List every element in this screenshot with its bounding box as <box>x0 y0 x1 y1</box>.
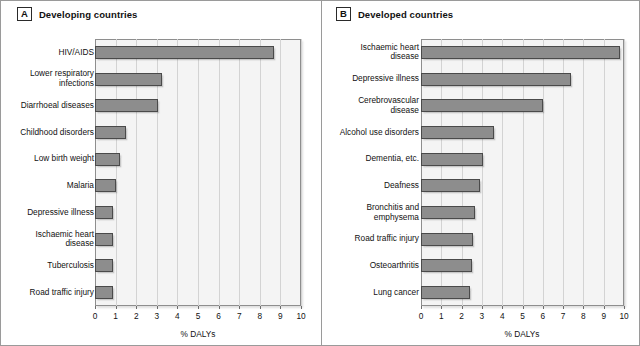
category-label: Bronchitis and emphysema <box>269 203 419 222</box>
category-label: Lung cancer <box>269 288 419 298</box>
axis-tick <box>462 306 463 309</box>
category-label: Malaria <box>0 181 94 191</box>
axis-tick-label: 1 <box>431 311 451 321</box>
axis-tick-label: 7 <box>229 311 249 321</box>
axis-tick-label: 8 <box>573 311 593 321</box>
category-label: Low birth weight <box>0 154 94 164</box>
axis-tick-label: 6 <box>533 311 553 321</box>
bar <box>95 153 120 166</box>
panel-b-plot-area <box>421 39 624 306</box>
axis-tick-label: 5 <box>188 311 208 321</box>
panel-b-letter: B <box>336 7 351 21</box>
category-label: Alcohol use disorders <box>269 128 419 138</box>
gridline <box>624 39 625 306</box>
axis-tick <box>583 306 584 309</box>
bar <box>421 126 494 139</box>
panel-b-header: B Developed countries <box>336 7 453 21</box>
category-label: Tuberculosis <box>0 261 94 271</box>
category-label: Depressive illness <box>0 208 94 218</box>
axis-tick-label: 8 <box>250 311 270 321</box>
axis-tick <box>116 306 117 309</box>
bar <box>95 46 274 59</box>
axis-tick <box>177 306 178 309</box>
category-label: Lower respiratory infections <box>0 69 94 88</box>
axis-tick-label: 9 <box>594 311 614 321</box>
panel-a-title: Developing countries <box>39 9 138 20</box>
category-label: Depressive illness <box>269 74 419 84</box>
bar <box>95 73 162 86</box>
panel-b-axis-title: % DALYs <box>462 329 582 339</box>
bar <box>421 46 620 59</box>
axis-tick-label: 5 <box>513 311 533 321</box>
axis-tick-label: 0 <box>411 311 431 321</box>
axis-tick <box>482 306 483 309</box>
bar <box>95 233 113 246</box>
category-label: Cerebrovascular disease <box>269 96 419 115</box>
bar <box>95 286 113 299</box>
category-label: Osteoarthritis <box>269 261 419 271</box>
bar <box>421 153 483 166</box>
bar <box>95 206 113 219</box>
category-label: Childhood disorders <box>0 128 94 138</box>
axis-tick-label: 10 <box>291 311 311 321</box>
axis-tick-label: 4 <box>492 311 512 321</box>
axis-tick-label: 3 <box>472 311 492 321</box>
axis-tick-label: 2 <box>126 311 146 321</box>
axis-tick-label: 4 <box>167 311 187 321</box>
bar <box>95 126 126 139</box>
bar <box>421 206 475 219</box>
bar <box>421 179 480 192</box>
axis-tick-label: 0 <box>85 311 105 321</box>
axis-tick <box>198 306 199 309</box>
bar <box>421 259 472 272</box>
axis-tick <box>301 306 302 309</box>
panel-b-title: Developed countries <box>358 9 453 20</box>
axis-tick-label: 6 <box>209 311 229 321</box>
axis-tick-label: 10 <box>614 311 634 321</box>
axis-tick-label: 2 <box>452 311 472 321</box>
axis-tick <box>563 306 564 309</box>
bar <box>95 99 158 112</box>
axis-tick <box>421 306 422 309</box>
bar <box>421 73 571 86</box>
bar <box>421 99 543 112</box>
panel-b-bars <box>421 39 624 306</box>
axis-tick-label: 3 <box>147 311 167 321</box>
panel-developed-countries: B Developed countries Ischaemic heart di… <box>320 1 639 345</box>
axis-tick <box>604 306 605 309</box>
axis-tick <box>239 306 240 309</box>
category-label: Ischaemic heart disease <box>269 43 419 62</box>
category-label: Dementia, etc. <box>269 154 419 164</box>
category-label: Road traffic injury <box>269 234 419 244</box>
category-label: Deafness <box>269 181 419 191</box>
bar <box>95 259 113 272</box>
bar <box>421 233 473 246</box>
panel-a-axis-title: % DALYs <box>138 329 258 339</box>
figure-container: A Developing countries HIV/AIDSLower res… <box>0 0 640 346</box>
axis-tick <box>136 306 137 309</box>
axis-tick <box>95 306 96 309</box>
panel-a-header: A Developing countries <box>17 7 137 21</box>
axis-tick-label: 1 <box>106 311 126 321</box>
category-label: Ischaemic heart disease <box>0 230 94 249</box>
axis-tick <box>502 306 503 309</box>
panel-a-letter: A <box>17 7 32 21</box>
axis-tick <box>280 306 281 309</box>
axis-tick <box>157 306 158 309</box>
category-label: Diarrhoeal diseases <box>0 101 94 111</box>
bar <box>421 286 470 299</box>
bar <box>95 179 116 192</box>
category-label: Road traffic injury <box>0 288 94 298</box>
axis-tick <box>260 306 261 309</box>
axis-tick <box>523 306 524 309</box>
axis-tick <box>624 306 625 309</box>
axis-tick-label: 9 <box>270 311 290 321</box>
axis-tick <box>543 306 544 309</box>
category-label: HIV/AIDS <box>0 48 94 58</box>
axis-tick <box>219 306 220 309</box>
axis-tick <box>441 306 442 309</box>
axis-tick-label: 7 <box>553 311 573 321</box>
